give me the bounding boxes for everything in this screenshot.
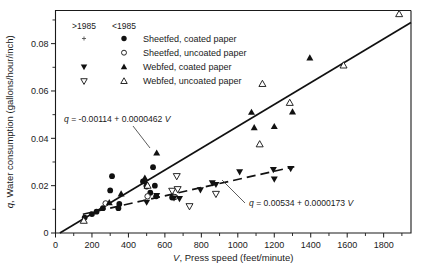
dashed-equation-leader	[222, 180, 245, 203]
x-tick-label: 800	[194, 240, 209, 250]
y-tick-label: 0	[43, 228, 48, 238]
marker-filled-circle	[152, 183, 158, 189]
marker-filled-down-triangle	[197, 187, 204, 193]
marker-filled-up-triangle	[121, 64, 127, 70]
marker-filled-down-triangle	[271, 176, 278, 182]
marker-filled-down-triangle	[81, 65, 87, 71]
x-tick-label: 600	[157, 240, 172, 250]
marker-filled-circle	[107, 187, 113, 193]
marker-open-down-triangle	[169, 188, 176, 194]
legend-header-after-1985: >1985	[72, 21, 96, 31]
marker-filled-circle	[94, 209, 100, 215]
marker-filled-up-triangle	[248, 109, 255, 115]
legend-entry-label: Webfed, coated paper	[143, 62, 231, 72]
marker-filled-up-triangle	[118, 190, 125, 196]
marker-filled-up-triangle	[153, 149, 160, 155]
legend-entry[interactable]: Sheetfed, coated paper	[82, 34, 237, 44]
marker-open-circle	[145, 194, 150, 199]
marker-open-up-triangle	[286, 99, 293, 105]
y-tick-label: 0.08	[31, 39, 49, 49]
legend: >1985<1985Sheetfed, coated paperSheetfed…	[72, 21, 247, 86]
legend-entry-label: Sheetfed, uncoated paper	[143, 48, 247, 58]
figure-container: 00.020.040.060.0802004006008001000120014…	[0, 0, 424, 279]
marker-plus	[82, 36, 86, 40]
legend-entry-label: Webfed, uncoated paper	[143, 76, 241, 86]
dashed-fit-equation: q = 0.00534 + 0.0000173 V	[249, 198, 354, 208]
marker-filled-up-triangle	[141, 174, 148, 180]
marker-open-down-triangle	[81, 79, 87, 85]
marker-open-down-triangle	[212, 191, 219, 197]
x-axis-title: V, Press speed (feet/minute)	[173, 252, 293, 263]
marker-open-up-triangle	[259, 80, 266, 86]
x-tick-label: 400	[121, 240, 136, 250]
y-axis-title: q, Water consumption (gallons/hour/inch)	[4, 35, 15, 208]
marker-filled-down-triangle	[236, 169, 243, 175]
legend-entry[interactable]: Webfed, coated paper	[81, 62, 232, 72]
legend-entry[interactable]: Sheetfed, uncoated paper	[122, 48, 247, 58]
solid-equation-leader	[133, 126, 150, 148]
marker-open-up-triangle	[121, 78, 127, 84]
x-tick-label: 1200	[264, 240, 284, 250]
marker-filled-circle	[150, 164, 156, 170]
scatter-plot: 00.020.040.060.0802004006008001000120014…	[0, 0, 424, 279]
marker-filled-up-triangle	[251, 124, 258, 130]
marker-filled-circle	[109, 173, 115, 179]
legend-entry[interactable]: Webfed, uncoated paper	[81, 76, 242, 86]
series-group	[169, 174, 220, 210]
legend-entry-label: Sheetfed, coated paper	[143, 34, 237, 44]
y-tick-label: 0.04	[31, 134, 49, 144]
marker-open-down-triangle	[173, 174, 180, 180]
x-tick-label: 1400	[301, 240, 321, 250]
legend-header-before-1985: <1985	[112, 21, 136, 31]
y-tick-label: 0.06	[31, 86, 49, 96]
annotations-layer: q = -0.00114 + 0.0000462 Vq = 0.00534 + …	[64, 114, 354, 208]
x-tick-label: 0	[53, 240, 58, 250]
x-tick-label: 200	[84, 240, 99, 250]
x-tick-label: 1000	[228, 240, 248, 250]
y-tick-label: 0.02	[31, 181, 49, 191]
marker-open-down-triangle	[186, 204, 193, 210]
marker-filled-up-triangle	[289, 108, 296, 114]
marker-filled-circle	[121, 36, 126, 41]
x-tick-label: 1600	[337, 240, 357, 250]
marker-filled-up-triangle	[306, 54, 313, 60]
x-tick-label: 1800	[374, 240, 394, 250]
solid-fit-equation: q = -0.00114 + 0.0000462 V	[64, 114, 172, 124]
marker-filled-circle	[116, 201, 122, 207]
marker-open-circle	[122, 50, 127, 55]
marker-open-up-triangle	[396, 10, 403, 16]
marker-open-up-triangle	[256, 141, 263, 147]
marker-filled-down-triangle	[143, 200, 150, 206]
marker-filled-down-triangle	[287, 166, 294, 172]
marker-filled-up-triangle	[271, 123, 278, 129]
